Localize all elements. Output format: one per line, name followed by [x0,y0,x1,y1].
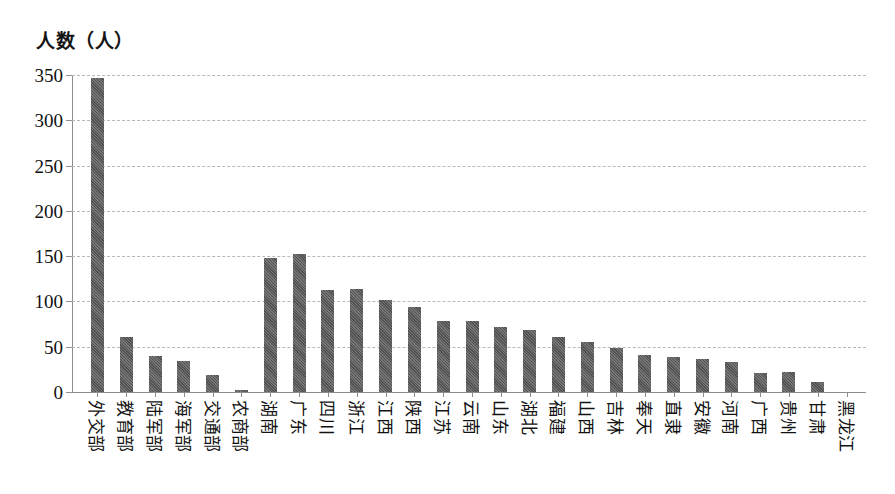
x-tick-mark [731,392,732,397]
x-tick-label: 直隶 [664,400,681,435]
x-tick-mark [97,392,98,397]
x-tick-label: 甘肃 [808,400,825,435]
y-tick-mark-250 [66,166,72,167]
x-tick-mark [847,392,848,397]
x-tick-mark [674,392,675,397]
y-tick-mark-0 [66,392,72,393]
x-tick-mark [328,392,329,397]
x-tick-mark [760,392,761,397]
x-tick-mark [501,392,502,397]
x-tick-label: 海军部 [174,400,191,453]
gridline-100 [72,301,866,302]
x-tick-mark [616,392,617,397]
x-tick-mark [299,392,300,397]
gridline-0 [72,392,866,393]
bar [638,355,651,392]
x-tick-label: 黑龙江 [837,400,854,453]
bar [696,359,709,392]
bar [177,361,190,392]
x-tick-mark [270,392,271,397]
x-tick-label: 湖南 [260,400,277,435]
x-tick-label: 福建 [548,400,565,435]
y-tick-mark-300 [66,120,72,121]
x-tick-mark [386,392,387,397]
x-tick-mark [443,392,444,397]
x-tick-label: 安徽 [693,400,710,435]
y-tick-label: 150 [35,247,64,266]
x-tick-label: 浙江 [347,400,364,435]
bar [754,373,767,392]
bar [523,330,536,392]
y-tick-label: 250 [35,156,64,175]
x-tick-label: 陆军部 [145,400,162,453]
x-tick-mark [126,392,127,397]
bar [811,382,824,392]
x-tick-label: 广东 [289,400,306,435]
bar [581,342,594,392]
x-tick-mark [645,392,646,397]
y-tick-mark-50 [66,347,72,348]
y-tick-label: 350 [35,66,64,85]
x-tick-label: 交通部 [203,400,220,453]
x-tick-label: 山东 [491,400,508,435]
bar [379,300,392,392]
x-tick-mark [530,392,531,397]
x-tick-label: 吉林 [606,400,623,435]
y-tick-mark-100 [66,301,72,302]
y-axis-title: 人数（人） [36,26,134,53]
bar [437,321,450,392]
bar [408,307,421,392]
y-tick-label: 100 [35,292,64,311]
x-tick-mark [558,392,559,397]
y-tick-mark-150 [66,256,72,257]
gridline-200 [72,211,866,212]
x-tick-label: 广西 [750,400,767,435]
bar [91,78,104,392]
bar [350,289,363,392]
x-tick-label: 山西 [577,400,594,435]
bar [494,327,507,392]
x-tick-label: 农商部 [231,400,248,453]
x-tick-mark [241,392,242,397]
plot-area: 050100150200250300350 外交部教育部陆军部海军部交通部农商部… [72,75,866,392]
x-tick-mark [213,392,214,397]
x-tick-label: 云南 [462,400,479,435]
gridline-250 [72,166,866,167]
x-tick-mark [414,392,415,397]
bar [120,337,133,392]
bar [667,357,680,392]
y-axis-line [72,75,73,392]
x-tick-mark [472,392,473,397]
x-tick-label: 江西 [376,400,393,435]
x-tick-mark [703,392,704,397]
x-tick-label: 贵州 [779,400,796,435]
x-tick-mark [184,392,185,397]
x-tick-label: 江苏 [433,400,450,435]
gridline-150 [72,256,866,257]
x-tick-label: 四川 [318,400,335,435]
x-tick-label: 教育部 [116,400,133,453]
x-tick-mark [587,392,588,397]
bar [552,337,565,392]
x-tick-label: 陕西 [404,400,421,435]
y-tick-label: 300 [35,111,64,130]
x-tick-label: 河南 [721,400,738,435]
y-tick-mark-200 [66,211,72,212]
y-tick-label: 50 [44,337,63,356]
bar [610,348,623,392]
x-tick-mark [357,392,358,397]
bar [782,372,795,392]
x-tick-label: 奉天 [635,400,652,435]
x-tick-mark [155,392,156,397]
x-tick-label: 湖北 [520,400,537,435]
bar [206,375,219,392]
y-tick-mark-350 [66,75,72,76]
y-tick-label: 0 [54,383,64,402]
gridline-350 [72,75,866,76]
y-tick-label: 200 [35,201,64,220]
x-tick-label: 外交部 [87,400,104,453]
bar-chart: 人数（人） 050100150200250300350 外交部教育部陆军部海军部… [0,0,895,494]
gridline-300 [72,120,866,121]
bar [466,321,479,392]
bar [725,362,738,392]
